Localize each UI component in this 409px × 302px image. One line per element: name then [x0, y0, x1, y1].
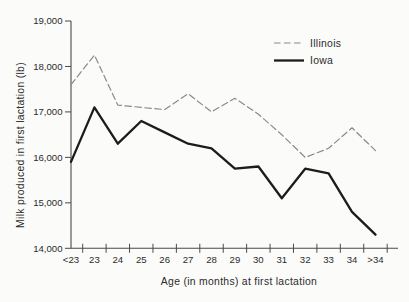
x-tick-label: 32	[300, 254, 311, 265]
legend-item-iowa: Iowa	[274, 55, 333, 66]
x-tick-label: 23	[89, 254, 100, 265]
legend-label: Illinois	[310, 38, 341, 49]
line-chart: 14,00015,00016,00017,00018,00019,000<232…	[0, 0, 409, 302]
y-axis-title: Milk produced in first lactation (lb)	[15, 62, 26, 228]
x-tick-label: 28	[206, 254, 217, 265]
y-tick-label: 15,000	[33, 197, 62, 208]
y-tick-label: 14,000	[33, 243, 62, 254]
x-tick-label: 31	[276, 254, 287, 265]
x-tick-label: 27	[183, 254, 194, 265]
x-tick-label: 30	[253, 254, 264, 265]
x-tick-label: 24	[113, 254, 124, 265]
chart-figure: 14,00015,00016,00017,00018,00019,000<232…	[0, 0, 409, 302]
x-tick-label: 25	[136, 254, 147, 265]
y-tick-label: 19,000	[33, 15, 62, 26]
x-tick-label: 26	[159, 254, 170, 265]
series-line-iowa	[71, 107, 376, 234]
x-tick-label: 33	[323, 254, 334, 265]
legend-label: Iowa	[310, 55, 333, 66]
y-tick-label: 17,000	[33, 106, 62, 117]
x-tick-label: 34	[347, 254, 358, 265]
x-tick-label: >34	[367, 254, 384, 265]
y-tick-label: 16,000	[33, 152, 62, 163]
x-axis-title: Age (in months) at first lactation	[161, 276, 317, 287]
legend-item-illinois: Illinois	[274, 38, 341, 49]
y-tick-label: 18,000	[33, 61, 62, 72]
x-tick-label: 29	[230, 254, 241, 265]
x-tick-label: <23	[63, 254, 79, 265]
